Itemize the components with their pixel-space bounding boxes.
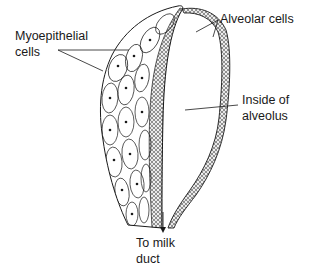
label-duct-line2: duct	[136, 251, 175, 267]
label-inside-line1: Inside of	[242, 92, 289, 108]
label-myoepithelial-line2: cells	[15, 44, 88, 60]
label-inside-of-alveolus: Inside of alveolus	[242, 92, 289, 124]
label-myoepithelial-cells: Myoepithelial cells	[15, 28, 88, 60]
label-alveolar-line1: Alveolar cells	[220, 11, 294, 27]
alveolus-diagram: Myoepithelial cells Alveolar cells Insid…	[0, 0, 312, 272]
label-to-milk-duct: To milk duct	[136, 235, 175, 267]
inside-leader	[185, 105, 238, 110]
alveolar-wall-right	[168, 8, 230, 228]
label-inside-line2: alveolus	[242, 108, 289, 124]
label-alveolar-cells: Alveolar cells	[220, 11, 294, 27]
label-duct-line1: To milk	[136, 235, 175, 251]
myoepithelial-layer	[100, 6, 184, 228]
label-myoepithelial-line1: Myoepithelial	[15, 28, 88, 44]
